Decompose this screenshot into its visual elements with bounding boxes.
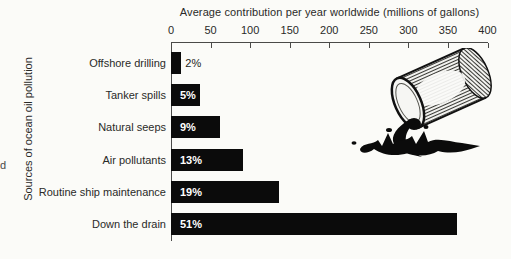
oil-puddle — [360, 131, 480, 155]
category-label: Air pollutants — [0, 149, 166, 171]
category-label: Down the drain — [0, 213, 166, 235]
category-label: Routine ship maintenance — [0, 181, 166, 203]
x-tick-label: 250 — [360, 24, 378, 36]
bar-value-label: 13% — [180, 149, 202, 171]
x-tick-label: 200 — [320, 24, 338, 36]
x-tick-label: 400 — [478, 24, 496, 36]
x-tick-label: 0 — [168, 24, 174, 36]
x-tick-mark — [211, 43, 212, 48]
oil-barrel-illustration — [340, 48, 502, 176]
bar — [171, 52, 181, 74]
bar-value-label: 2% — [185, 52, 201, 74]
bar-value-label: 19% — [180, 181, 202, 203]
oil-drip — [352, 141, 357, 145]
chart-title: Average contribution per year worldwide … — [171, 6, 488, 18]
x-tick-label: 300 — [399, 24, 417, 36]
chart-figure: Average contribution per year worldwide … — [0, 0, 511, 259]
x-tick-label: 100 — [241, 24, 259, 36]
barrel-body — [385, 48, 498, 133]
category-label: Natural seeps — [0, 116, 166, 138]
bar-value-label: 9% — [180, 116, 196, 138]
oil-drip — [424, 125, 429, 129]
x-tick-label: 150 — [281, 24, 299, 36]
bar — [171, 213, 457, 235]
bar-value-label: 51% — [180, 213, 202, 235]
x-tick-mark — [329, 43, 330, 48]
bar-value-label: 5% — [180, 84, 196, 106]
x-tick-label: 50 — [204, 24, 216, 36]
oil-drip — [386, 128, 392, 132]
x-tick-label: 350 — [439, 24, 457, 36]
x-tick-mark — [171, 43, 172, 48]
x-tick-mark — [290, 43, 291, 48]
category-label: Tanker spills — [0, 84, 166, 106]
category-label: Offshore drilling — [0, 52, 166, 74]
x-tick-mark — [250, 43, 251, 48]
